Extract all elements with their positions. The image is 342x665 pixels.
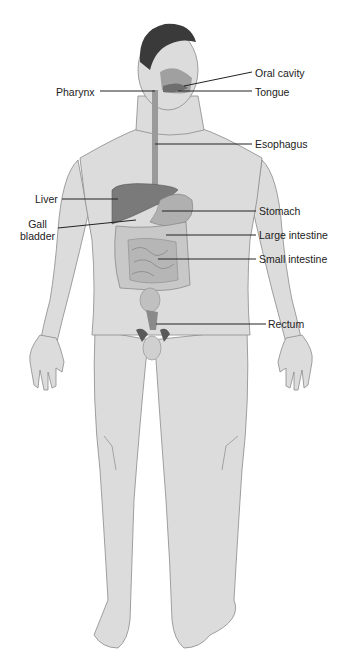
small-intestine-shape bbox=[128, 238, 178, 283]
left-leg bbox=[94, 330, 150, 648]
label-esophagus: Esophagus bbox=[255, 138, 308, 150]
label-oral-cavity: Oral cavity bbox=[255, 67, 305, 79]
left-hand bbox=[30, 335, 64, 390]
label-small-intestine: Small intestine bbox=[259, 253, 327, 265]
label-tongue: Tongue bbox=[255, 86, 289, 98]
label-rectum: Rectum bbox=[268, 318, 304, 330]
left-arm bbox=[40, 160, 88, 350]
label-pharynx: Pharynx bbox=[56, 86, 95, 98]
body-illustration bbox=[0, 0, 342, 665]
label-large-intestine: Large intestine bbox=[259, 229, 328, 241]
right-leg bbox=[152, 330, 248, 648]
label-gall-bladder: Gall bladder bbox=[20, 218, 55, 242]
bladder-shape bbox=[140, 288, 160, 312]
right-hand bbox=[278, 335, 312, 390]
genital bbox=[143, 336, 161, 360]
digestive-system-diagram: Oral cavity Tongue Pharynx Esophagus Liv… bbox=[0, 0, 342, 665]
label-stomach: Stomach bbox=[259, 205, 300, 217]
label-liver: Liver bbox=[35, 193, 58, 205]
